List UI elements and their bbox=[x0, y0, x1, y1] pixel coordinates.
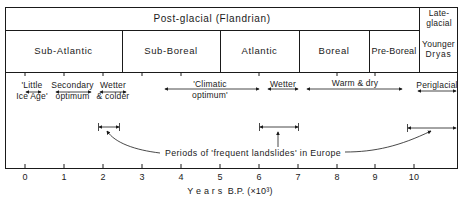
axis-tick-8: 8 bbox=[327, 172, 347, 182]
axis-tick-9: 9 bbox=[365, 172, 385, 182]
zone-younger-dryas-1: Younger bbox=[419, 40, 458, 49]
little-ice-age-label-2: Ice Age' bbox=[16, 92, 48, 101]
post-glacial-label: Post-glacial (Flandrian) bbox=[5, 14, 419, 24]
zone-atlantic: Atlantic bbox=[220, 46, 299, 56]
axis-tick-0: 0 bbox=[15, 172, 35, 182]
late-glacial-label-2: glacial bbox=[420, 19, 458, 28]
axis-label: Y e a r s B.P. (×10³) bbox=[150, 186, 310, 196]
axis-tick-6: 6 bbox=[249, 172, 269, 182]
periglacial-label: Periglacial bbox=[415, 81, 459, 90]
landslides-caption: Periods of 'frequent landslides' in Euro… bbox=[160, 148, 346, 158]
zone-sub-boreal: Sub-Boreal bbox=[122, 46, 220, 56]
axis-tick-2: 2 bbox=[93, 172, 113, 182]
secondary-optimum-label-1: Secondary bbox=[50, 81, 95, 90]
wetter-label: Wetter bbox=[266, 80, 300, 89]
axis-tick-4: 4 bbox=[171, 172, 191, 182]
axis-tick-7: 7 bbox=[288, 172, 308, 182]
zone-pre-boreal: Pre-Boreal bbox=[369, 46, 419, 56]
zone-sub-atlantic: Sub-Atlantic bbox=[5, 46, 122, 56]
axis-tick-5: 5 bbox=[210, 172, 230, 182]
axis-tick-3: 3 bbox=[132, 172, 152, 182]
axis-ticks bbox=[25, 164, 414, 168]
wetter-colder-label-2: & colder bbox=[96, 92, 130, 101]
zone-boreal: Boreal bbox=[299, 46, 369, 56]
climatic-optimum-label-2: optimum' bbox=[180, 91, 240, 100]
zone-younger-dryas-2: Dryas bbox=[419, 50, 458, 59]
climatic-optimum-label-1: 'Climatic bbox=[180, 80, 240, 89]
wetter-colder-label-1: Wetter bbox=[96, 81, 130, 90]
late-glacial-label-1: Late- bbox=[420, 9, 458, 18]
axis-tick-10: 10 bbox=[404, 172, 424, 182]
axis-tick-1: 1 bbox=[54, 172, 74, 182]
warm-dry-label: Warm & dry bbox=[330, 79, 380, 88]
little-ice-age-label-1: 'Little bbox=[16, 81, 48, 90]
secondary-optimum-label-2: optimum bbox=[50, 92, 95, 101]
